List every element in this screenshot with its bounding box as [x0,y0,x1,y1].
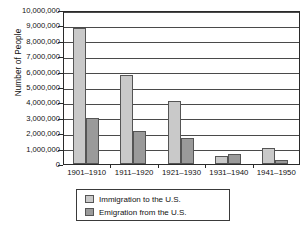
legend-item: Immigration to the U.S. [85,193,229,205]
y-axis-tick-label: 9,000,000 [0,22,60,30]
bar [228,154,241,164]
legend-item: Emigration from the U.S. [85,206,229,218]
legend-label-immigration: Immigration to the U.S. [99,195,181,204]
legend-swatch-immigration [85,195,94,203]
gridline [64,73,299,74]
y-axis-tick-label: 2,000,000 [0,130,60,138]
bar [275,160,288,164]
y-axis-tick-label: 3,000,000 [0,115,60,123]
y-axis-tick [58,165,63,166]
legend-swatch-emigration [85,208,94,216]
bar [215,156,228,164]
gridline [64,135,299,136]
x-axis-category-label: 1931–1940 [205,168,252,177]
legend-label-emigration: Emigration from the U.S. [99,208,187,217]
gridline [64,104,299,105]
y-axis-tick-label: 7,000,000 [0,53,60,61]
y-axis-tick-label: 1,000,000 [0,146,60,154]
bar-chart: Number of People 01,000,0002,000,0003,00… [0,0,308,225]
chart-legend: Immigration to the U.S. Emigration from … [76,189,230,221]
gridline [64,27,299,28]
y-axis-tick-label: 5,000,000 [0,84,60,92]
y-axis-tick-label: 0 [0,161,60,169]
bar [133,131,146,164]
x-axis-tick [253,164,254,168]
gridline [64,119,299,120]
x-axis-category-label: 1921–1930 [158,168,205,177]
x-axis-tick [205,164,206,168]
gridline [64,58,299,59]
x-axis-tick [158,164,159,168]
bar [181,138,194,164]
bar [73,28,86,164]
x-axis-category-label: 1941–1950 [253,168,300,177]
y-axis-tick-label: 8,000,000 [0,38,60,46]
bar [168,101,181,164]
plot-area [63,11,300,165]
gridline [64,12,299,13]
gridline [64,89,299,90]
y-axis-tick-label: 4,000,000 [0,99,60,107]
bar [120,75,133,164]
x-axis-category-label: 1911–1920 [110,168,157,177]
x-axis-tick [110,164,111,168]
gridline [64,42,299,43]
y-axis-tick-label: 6,000,000 [0,69,60,77]
bar [262,148,275,164]
y-axis-tick-label: 10,000,000 [0,7,60,15]
x-axis-category-label: 1901–1910 [63,168,110,177]
bar [86,118,99,164]
